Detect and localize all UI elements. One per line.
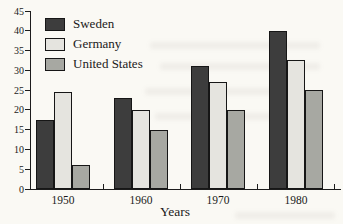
legend-label-united-states: United States: [73, 56, 143, 72]
y-axis-tick-label: 45: [1, 6, 24, 17]
y-axis-tick-label: 0: [1, 184, 24, 195]
y-axis-tick: [25, 90, 30, 91]
y-axis-tick-label: 5: [1, 164, 24, 175]
x-axis-title: Years: [30, 204, 320, 220]
legend-label-germany: Germany: [73, 36, 121, 52]
y-axis-tick-label: 35: [1, 45, 24, 56]
y-axis-tick: [25, 50, 30, 51]
y-axis-tick-label: 25: [1, 85, 24, 96]
y-axis-tick-label: 20: [1, 104, 24, 115]
chart-title-text: Tax Percent: [141, 3, 202, 4]
y-axis-tick: [25, 189, 30, 190]
y-axis-tick: [25, 11, 30, 12]
bar-germany-1950: [54, 92, 72, 189]
y-axis-tick: [25, 129, 30, 130]
legend-swatch-germany: [45, 38, 65, 51]
y-axis-tick: [25, 30, 30, 31]
legend-swatch-united-states: [45, 58, 65, 71]
y-axis-tick: [25, 70, 30, 71]
x-axis-tick: [334, 184, 335, 189]
chart-title-truncated: Tax Percent: [0, 0, 343, 4]
x-axis-tick: [257, 184, 258, 189]
bar-sweden-1950: [36, 120, 54, 189]
bar-sweden-1980: [269, 31, 287, 189]
bar-united-states-1970: [227, 110, 245, 189]
y-axis-tick: [25, 109, 30, 110]
y-axis-tick-label: 40: [1, 25, 24, 36]
bar-united-states-1960: [150, 130, 168, 189]
chart-legend: SwedenGermanyUnited States: [45, 14, 143, 74]
y-axis-tick: [25, 149, 30, 150]
scanned-book-page: Tax Percent SwedenGermanyUnited States 0…: [0, 0, 343, 224]
legend-item-germany: Germany: [45, 34, 143, 54]
legend-item-sweden: Sweden: [45, 14, 143, 34]
bar-sweden-1970: [191, 66, 209, 189]
legend-swatch-sweden: [45, 18, 65, 31]
x-axis-tick: [103, 184, 104, 189]
bar-germany-1970: [209, 82, 227, 189]
y-axis-tick-label: 15: [1, 124, 24, 135]
y-axis-tick-label: 10: [1, 144, 24, 155]
bar-united-states-1980: [305, 90, 323, 189]
bar-chart-plot-area: SwedenGermanyUnited States 0510152025303…: [30, 11, 341, 190]
bar-united-states-1950: [72, 165, 90, 189]
legend-label-sweden: Sweden: [73, 16, 114, 32]
y-axis-tick-label: 30: [1, 65, 24, 76]
y-axis-tick: [25, 169, 30, 170]
legend-item-united-states: United States: [45, 54, 143, 74]
bar-germany-1980: [287, 60, 305, 189]
bar-germany-1960: [132, 110, 150, 189]
bar-sweden-1960: [114, 98, 132, 189]
x-axis-tick: [180, 184, 181, 189]
